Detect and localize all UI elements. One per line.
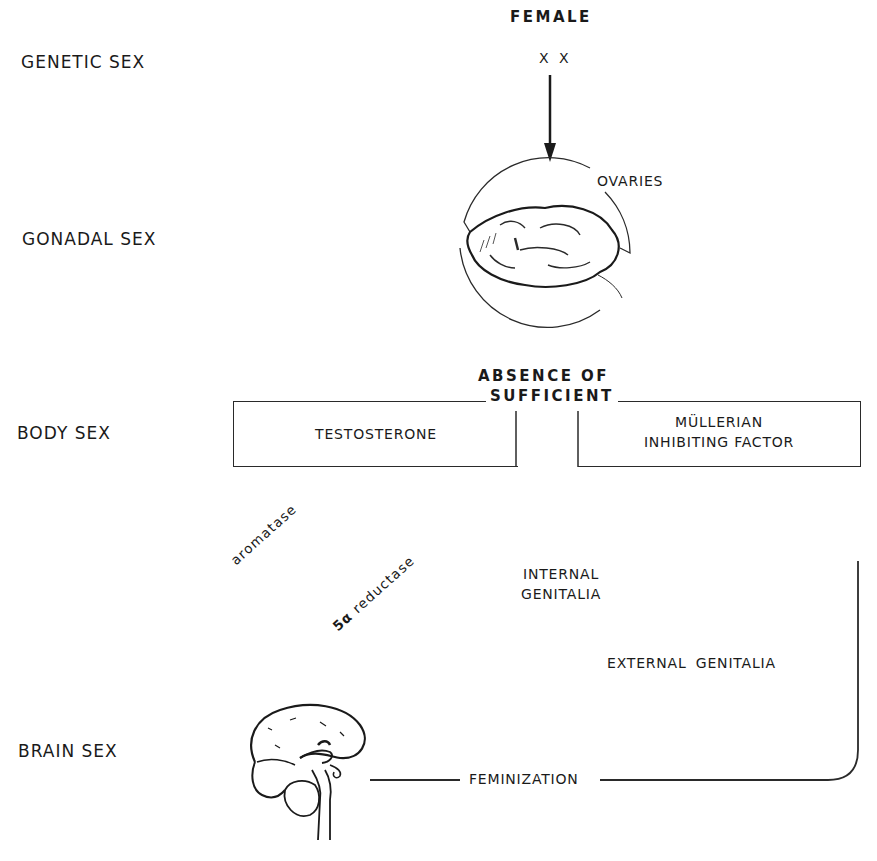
internal-genitalia-line1: INTERNAL — [523, 566, 599, 582]
hormone-connector-lines — [516, 411, 578, 467]
external-genitalia-label: EXTERNAL GENITALIA — [607, 655, 776, 671]
ovary-illustration — [460, 158, 630, 328]
absence-label-line1: ABSENCE OF — [478, 367, 609, 385]
testosterone-label: TESTOSTERONE — [234, 424, 518, 444]
mif-label-line2: INHIBITING FACTOR — [578, 432, 860, 452]
absence-label-line2-overlay: SUFFICIENT — [486, 387, 618, 405]
mif-box: MÜLLERIAN INHIBITING FACTOR — [578, 401, 861, 467]
arrow-down-icon — [544, 75, 556, 162]
mif-label-line1: MÜLLERIAN — [578, 412, 860, 432]
feminization-label: FEMINIZATION — [466, 771, 582, 787]
testosterone-box: TESTOSTERONE — [233, 401, 518, 467]
internal-genitalia-line2: GENITALIA — [521, 586, 601, 602]
brain-illustration — [251, 705, 365, 840]
